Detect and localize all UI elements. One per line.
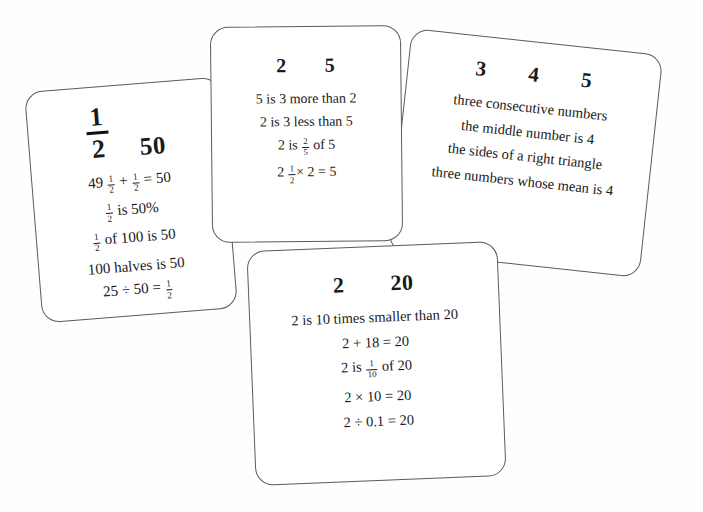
header-number-five: 5 — [325, 55, 336, 75]
line-text: 5 is 3 more than 2 — [256, 90, 357, 106]
card-three-four-five[interactable]: 3 4 5 three consecutive numbersthe middl… — [388, 28, 664, 278]
header-fraction-one-half: 1 2 — [84, 103, 111, 164]
inline-fraction: 110 — [366, 359, 378, 380]
fraction-numerator: 2 — [302, 137, 308, 146]
fraction-numerator: 1 — [105, 203, 112, 213]
fraction-numerator: 1 — [93, 232, 100, 242]
line-text: 2 is — [341, 359, 366, 376]
fraction-denominator: 2 — [106, 214, 113, 224]
card-two-five-lines: 5 is 3 more than 22 is 3 less than 52 is… — [212, 90, 402, 186]
card-half-fifty[interactable]: 1 2 50 49 12 + 12 = 5012 is 50%12 of 100… — [24, 77, 238, 324]
line-text: 2 + 18 = 20 — [342, 332, 410, 351]
line-text: of 20 — [378, 357, 412, 374]
header-number-two: 2 — [333, 274, 345, 296]
fraction-numerator: 1 — [107, 174, 114, 184]
card-two-five[interactable]: 2 5 5 is 3 more than 22 is 3 less than 5… — [210, 25, 403, 243]
header-number-twenty: 20 — [390, 271, 414, 294]
card-two-twenty-header: 2 20 — [248, 268, 498, 300]
fraction-denominator: 2 — [133, 184, 140, 194]
header-number-two: 2 — [276, 55, 287, 75]
card-two-five-header: 2 5 — [211, 54, 400, 76]
header-fraction-denominator: 2 — [87, 134, 111, 163]
fraction-denominator: 10 — [366, 370, 377, 380]
line-text: 2 — [277, 165, 288, 180]
fraction-numerator: 1 — [366, 359, 377, 369]
card-line: 2 + 18 = 20 — [251, 329, 500, 356]
header-number-three: 3 — [475, 58, 488, 80]
fraction-denominator: 2 — [108, 186, 115, 196]
fraction-numerator: 1 — [132, 172, 139, 182]
line-text: 2 is 3 less than 5 — [260, 114, 353, 130]
line-text: 2 is 10 times smaller than 20 — [291, 306, 458, 329]
card-line: 2 12× 2 = 5 — [212, 163, 401, 185]
card-line: 2 is 25 of 5 — [212, 136, 401, 158]
fraction-denominator: 2 — [94, 244, 101, 254]
line-text: 100 halves is 50 — [87, 254, 185, 278]
header-number-four: 4 — [527, 64, 540, 86]
card-line: 2 is 3 less than 5 — [212, 113, 401, 131]
inline-fraction: 12 — [165, 279, 173, 301]
fraction-numerator: 1 — [165, 279, 172, 289]
line-text: = 50 — [139, 169, 171, 187]
header-number-five: 5 — [580, 70, 593, 92]
card-line: 2 is 10 times smaller than 20 — [250, 304, 499, 331]
cards-canvas: 1 2 50 49 12 + 12 = 5012 is 50%12 of 100… — [0, 0, 703, 512]
line-text: 2 is — [278, 137, 301, 152]
header-number-fifty: 50 — [139, 132, 167, 159]
line-text: 2 × 10 = 20 — [344, 386, 412, 405]
inline-fraction: 25 — [302, 137, 309, 157]
line-text: the middle number is 4 — [460, 117, 595, 147]
inline-fraction: 12 — [289, 165, 296, 185]
line-text: 49 — [87, 174, 107, 191]
line-text: 2 ÷ 0.1 = 20 — [343, 411, 414, 430]
card-line: 2 ÷ 0.1 = 20 — [254, 407, 503, 434]
line-text: 25 ÷ 50 = — [102, 279, 165, 300]
line-text: of 5 — [310, 137, 336, 152]
card-two-twenty-lines: 2 is 10 times smaller than 202 + 18 = 20… — [250, 304, 504, 434]
fraction-denominator: 2 — [166, 291, 173, 301]
card-three-four-five-lines: three consecutive numbersthe middle numb… — [397, 86, 656, 203]
line-text: + — [115, 172, 132, 189]
card-half-fifty-lines: 49 12 + 12 = 5012 is 50%12 of 100 is 501… — [32, 164, 236, 311]
line-text: × 2 = 5 — [296, 164, 336, 179]
card-line: 2 is 110 of 20 — [252, 353, 502, 384]
fraction-denominator: 5 — [302, 148, 308, 157]
card-half-fifty-header: 1 2 50 — [26, 94, 224, 168]
fraction-denominator: 2 — [289, 176, 295, 185]
line-text: is 50% — [113, 198, 159, 218]
card-line: 5 is 3 more than 2 — [212, 90, 401, 108]
header-fraction-numerator: 1 — [84, 103, 108, 132]
card-line: 2 × 10 = 20 — [253, 383, 502, 410]
line-text: of 100 is 50 — [100, 226, 176, 248]
fraction-numerator: 1 — [289, 165, 295, 174]
card-two-twenty[interactable]: 2 20 2 is 10 times smaller than 202 + 18… — [246, 241, 506, 486]
